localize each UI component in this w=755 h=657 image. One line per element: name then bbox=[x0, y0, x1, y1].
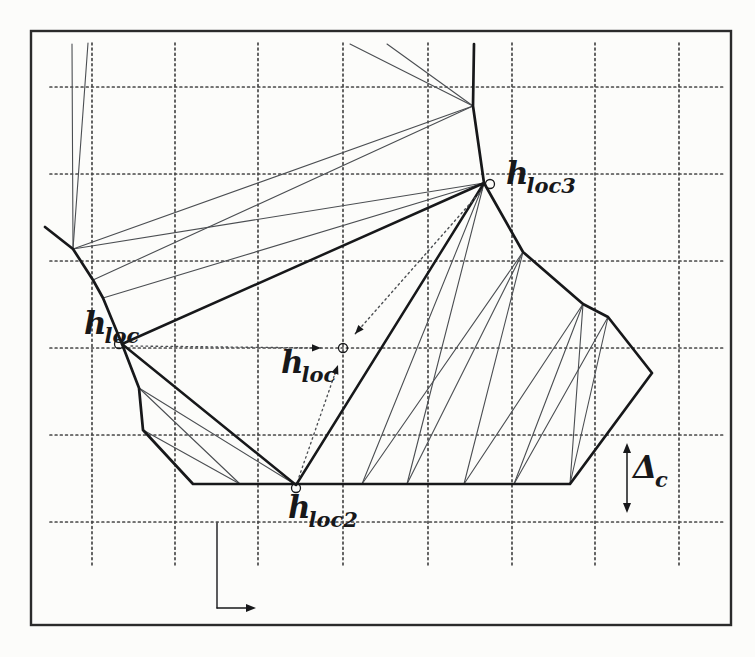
figure-frame bbox=[31, 31, 731, 625]
delta-c-arrow bbox=[623, 443, 631, 513]
center-dashed-arrows bbox=[131, 190, 482, 477]
fine-mesh-lines bbox=[72, 43, 608, 485]
figure-stage: hloc hloc3 hloc hloc2 Δc bbox=[0, 0, 755, 657]
mesh-diagram bbox=[0, 0, 755, 657]
grid-dotted-lines bbox=[50, 43, 724, 566]
axis-indicator bbox=[217, 523, 256, 612]
coarse-boundary bbox=[45, 44, 652, 484]
